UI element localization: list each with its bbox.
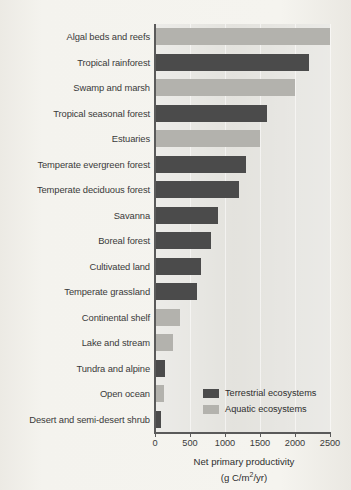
x-tick-mark bbox=[295, 433, 296, 437]
bar-row: Temperate deciduous forest bbox=[0, 177, 351, 203]
x-axis-title-text: Net primary productivity bbox=[194, 456, 295, 467]
x-tick-mark bbox=[260, 433, 261, 437]
bar-row: Cultivated land bbox=[0, 254, 351, 280]
legend-item: Aquatic ecosystems bbox=[203, 402, 331, 416]
category-label: Temperate deciduous forest bbox=[0, 177, 150, 203]
bar-row: Temperate evergreen forest bbox=[0, 152, 351, 178]
category-label: Continental shelf bbox=[0, 305, 150, 331]
legend-label: Aquatic ecosystems bbox=[225, 404, 307, 414]
category-label: Savanna bbox=[0, 203, 150, 229]
category-label: Boreal forest bbox=[0, 228, 150, 254]
x-tick-label: 500 bbox=[170, 438, 210, 448]
bar-row: Tundra and alpine bbox=[0, 356, 351, 382]
bar bbox=[155, 232, 211, 249]
bar bbox=[155, 334, 173, 351]
bar bbox=[155, 54, 309, 71]
x-axis-line bbox=[154, 432, 331, 434]
bar bbox=[155, 309, 180, 326]
x-tick-mark bbox=[190, 433, 191, 437]
x-axis-title: Net primary productivity (g C/m2/yr) bbox=[155, 455, 333, 484]
category-label: Tundra and alpine bbox=[0, 356, 150, 382]
bar-row: Lake and stream bbox=[0, 330, 351, 356]
bar bbox=[155, 156, 246, 173]
x-tick-label: 0 bbox=[135, 438, 175, 448]
legend-swatch bbox=[203, 405, 219, 414]
bar bbox=[155, 385, 164, 402]
y-axis-line bbox=[154, 24, 156, 433]
x-tick-mark bbox=[225, 433, 226, 437]
bar bbox=[155, 130, 260, 147]
x-axis-units: (g C/m2/yr) bbox=[155, 468, 333, 484]
category-label: Temperate grassland bbox=[0, 279, 150, 305]
x-tick-mark bbox=[330, 433, 331, 437]
x-tick-label: 2500 bbox=[310, 438, 350, 448]
bar bbox=[155, 79, 295, 96]
category-label: Algal beds and reefs bbox=[0, 24, 150, 50]
category-label: Temperate evergreen forest bbox=[0, 152, 150, 178]
bar bbox=[155, 181, 239, 198]
bar bbox=[155, 28, 330, 45]
bar bbox=[155, 258, 201, 275]
bar-row: Continental shelf bbox=[0, 305, 351, 331]
category-label: Open ocean bbox=[0, 381, 150, 407]
category-label: Estuaries bbox=[0, 126, 150, 152]
bar-row: Tropical seasonal forest bbox=[0, 101, 351, 127]
bar bbox=[155, 207, 218, 224]
x-tick-label: 2000 bbox=[275, 438, 315, 448]
legend-label: Terrestrial ecosystems bbox=[225, 388, 316, 398]
bar bbox=[155, 105, 267, 122]
bar-row: Temperate grassland bbox=[0, 279, 351, 305]
category-label: Tropical seasonal forest bbox=[0, 101, 150, 127]
x-axis-units-prefix: (g C/m bbox=[221, 472, 250, 483]
bar-row: Tropical rainforest bbox=[0, 50, 351, 76]
x-axis-units-suffix: /yr) bbox=[253, 472, 267, 483]
category-label: Lake and stream bbox=[0, 330, 150, 356]
x-tick-label: 1000 bbox=[205, 438, 245, 448]
category-label: Tropical rainforest bbox=[0, 50, 150, 76]
npp-bar-chart: Algal beds and reefsTropical rainforestS… bbox=[0, 0, 351, 490]
bar-row: Savanna bbox=[0, 203, 351, 229]
bar-row: Boreal forest bbox=[0, 228, 351, 254]
bar-row: Swamp and marsh bbox=[0, 75, 351, 101]
bar bbox=[155, 283, 197, 300]
bar bbox=[155, 411, 161, 428]
x-tick-label: 1500 bbox=[240, 438, 280, 448]
bar-row: Algal beds and reefs bbox=[0, 24, 351, 50]
bar bbox=[155, 360, 165, 377]
legend-item: Terrestrial ecosystems bbox=[203, 386, 331, 400]
category-label: Desert and semi-desert shrub bbox=[0, 407, 150, 433]
category-label: Cultivated land bbox=[0, 254, 150, 280]
legend-swatch bbox=[203, 389, 219, 398]
bar-row: Estuaries bbox=[0, 126, 351, 152]
category-label: Swamp and marsh bbox=[0, 75, 150, 101]
x-tick-mark bbox=[155, 433, 156, 437]
chart-legend: Terrestrial ecosystemsAquatic ecosystems bbox=[203, 386, 331, 418]
